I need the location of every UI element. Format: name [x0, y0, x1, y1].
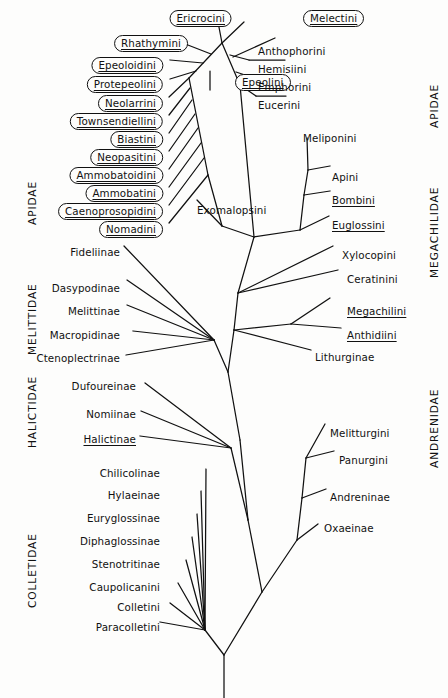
boxed-taxon-label: Protepeolini	[94, 78, 156, 90]
branch-trunk-lower	[248, 520, 262, 592]
taxon-emphorini: Emphorini	[258, 82, 311, 93]
taxon-hylaeinae: Hylaeinae	[108, 490, 160, 501]
boxed-taxon-protepeolini: Protepeolini	[87, 76, 163, 93]
taxon-oxaeinae: Oxaeinae	[324, 523, 374, 534]
boxed-taxon-label: Caenoprosopidini	[65, 205, 156, 217]
taxon-halictinae: Halictinae	[83, 434, 136, 445]
branch-colletini	[170, 603, 205, 630]
boxed-taxon-nomadini: Nomadini	[99, 221, 163, 238]
branch-apid-core	[238, 237, 254, 293]
branch-caupolicanini	[178, 583, 205, 630]
family-label-andrenidae-right: ANDRENIDAE	[428, 389, 440, 468]
boxed-taxon-label: Ammobatoidini	[76, 169, 156, 181]
family-label-apidae-right: APIDAE	[428, 84, 440, 128]
taxon-eucerini: Eucerini	[258, 100, 300, 111]
boxed-taxon-rhathymini: Rhathymini	[114, 35, 188, 52]
boxed-taxon-ammobatini: Ammobatini	[85, 185, 163, 202]
family-label-colletidae-left: COLLETIDAE	[26, 533, 38, 608]
branch-biastini	[169, 100, 192, 133]
taxon-diphaglossinae: Diphaglossinae	[80, 536, 160, 547]
branch-andrenidae-stem	[262, 540, 297, 592]
branch-townsendiellini	[169, 88, 190, 115]
boxed-taxon-label: Ammobatini	[92, 187, 156, 199]
branch-epeoline-spine	[189, 43, 222, 78]
taxon-dufoureinae: Dufoureinae	[72, 381, 136, 392]
boxed-taxon-townsendiellini: Townsendiellini	[70, 113, 163, 130]
taxon-colletini: Colletini	[117, 602, 160, 613]
taxon-caupolicanini: Caupolicanini	[89, 582, 160, 593]
taxon-exomalopsini: Exomalopsini	[197, 205, 266, 216]
taxon-anthophorini: Anthophorini	[258, 46, 325, 57]
family-label-apidae-left: APIDAE	[26, 181, 38, 225]
branch-megachilini	[291, 298, 330, 324]
branch-lithurginae	[234, 330, 311, 350]
cladogram-figure: EricrociniMelectiniRhathyminiEpeoloidini…	[0, 0, 448, 698]
family-label-megachilidae-right: MEGACHILIDAE	[428, 187, 440, 278]
branch-corbic-upper	[300, 195, 304, 230]
boxed-taxon-label: Melectini	[310, 12, 357, 24]
branch-anthidiini	[291, 324, 341, 328]
boxed-taxon-label: Rhathymini	[121, 37, 181, 49]
branch-megachilinae-stem	[234, 324, 291, 330]
taxon-lithurginae: Lithurginae	[315, 352, 374, 363]
taxon-ctenoplectrinae: Ctenoplectrinae	[36, 353, 120, 364]
branch-megachilid-apid-stem	[228, 330, 234, 372]
branch-ammobatini	[169, 143, 201, 187]
branch-ceratinini	[238, 270, 338, 293]
branch-corbiculate-stem	[254, 230, 300, 237]
boxed-taxon-label: Biastini	[117, 133, 156, 145]
branch-ctenoplectrinae	[126, 340, 214, 355]
taxon-apini: Apini	[332, 172, 358, 183]
boxed-taxon-label: Neopasitini	[97, 151, 156, 163]
boxed-taxon-epeoloidini: Epeoloidini	[91, 57, 163, 74]
branch-basal-left	[205, 630, 224, 655]
taxon-dasypodinae: Dasypodinae	[52, 283, 120, 294]
taxon-megachilini: Megachilini	[347, 306, 406, 317]
branch-neopasitini	[169, 114, 195, 151]
boxed-taxon-neopasitini: Neopasitini	[90, 149, 163, 166]
taxon-paracolletini: Paracolletini	[96, 622, 160, 633]
taxon-euryglossinae: Euryglossinae	[87, 513, 160, 524]
branch-chilicolinae	[205, 469, 206, 630]
taxon-hemisiini: Hemisiini	[258, 64, 306, 75]
taxon-nomiinae: Nomiinae	[86, 409, 136, 420]
branch-melitturgini	[306, 424, 325, 458]
branch-melittidae-stem	[214, 340, 228, 372]
branch-trunk-mid	[240, 440, 248, 520]
taxon-anthidiini: Anthidiini	[347, 330, 397, 341]
boxed-taxon-biastini: Biastini	[110, 131, 163, 148]
taxon-melittinae: Melittinae	[68, 306, 120, 317]
taxon-euglossini: Euglossini	[332, 220, 385, 231]
boxed-taxon-label: Nomadini	[106, 223, 156, 235]
taxon-melitturgini: Melitturgini	[330, 428, 390, 439]
taxon-fideliinae: Fideliinae	[70, 247, 120, 258]
branch-fideliinae	[124, 246, 214, 340]
branch-andreninae	[302, 489, 326, 498]
branch-euglossini	[300, 216, 329, 230]
branch-basal-right	[224, 592, 262, 655]
branch-nomadine-spine	[189, 78, 208, 175]
branch-caenoprosopidini	[169, 158, 204, 205]
boxed-taxon-label: Neolarrini	[105, 97, 156, 109]
branch-oxaeinae	[297, 524, 318, 540]
taxon-meliponini: Meliponini	[303, 133, 357, 144]
branch-trunk-upper-1	[228, 372, 240, 440]
branch-andrenidae-upper	[297, 498, 302, 540]
branch-nomadine-anthophorine-stem	[222, 226, 254, 237]
branch-xylocopini	[238, 246, 333, 293]
boxed-taxon-ericrocini: Ericrocini	[170, 10, 232, 27]
family-label-melittidae-left: MELITTIDAE	[26, 283, 38, 355]
family-label-halictidae-left: HALICTIDAE	[26, 376, 38, 448]
taxon-macropidinae: Macropidinae	[50, 330, 120, 341]
branch-panurgini	[306, 451, 334, 458]
boxed-taxon-caenoprosopidini: Caenoprosopidini	[58, 203, 163, 220]
branch-halictidae-stem	[231, 448, 248, 520]
phylogeny-branches	[0, 0, 448, 698]
boxed-taxon-label: Epeoloidini	[98, 59, 156, 71]
taxon-chilicolinae: Chilicolinae	[100, 468, 160, 479]
taxon-xylocopini: Xylocopini	[342, 250, 396, 261]
branch-ammobatoidini	[169, 128, 198, 169]
branch-apidae-stem	[234, 293, 238, 330]
branch-bombini	[304, 191, 330, 195]
taxon-panurgini: Panurgini	[339, 455, 388, 466]
